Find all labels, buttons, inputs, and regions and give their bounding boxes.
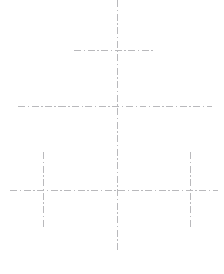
centerline-drawing [0, 0, 224, 274]
drawing-canvas[interactable] [0, 0, 224, 274]
drawing-background [0, 0, 224, 274]
